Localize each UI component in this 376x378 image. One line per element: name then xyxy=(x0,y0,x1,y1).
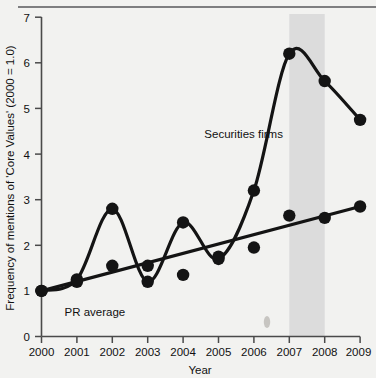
y-tick-label-1: 1 xyxy=(24,285,30,297)
x-tick-label-2003: 2003 xyxy=(135,346,161,358)
x-axis-ticks xyxy=(42,337,361,344)
y-tick-label-7: 7 xyxy=(24,12,30,24)
chart-plot-area: 0 1 2 3 4 5 6 7 2000 2001 2002 2 xyxy=(0,0,376,378)
pr-average-label: PR average xyxy=(65,306,126,318)
securities-firms-data-point xyxy=(35,285,47,297)
y-tick-label-6: 6 xyxy=(24,57,30,69)
x-tick-label-2002: 2002 xyxy=(100,346,126,358)
y-tick-label-0: 0 xyxy=(24,331,30,343)
y-tick-label-5: 5 xyxy=(24,103,30,115)
shaded-band-2007-2008 xyxy=(289,14,324,336)
securities-firms-data-point xyxy=(248,184,260,196)
x-tick-label-2006: 2006 xyxy=(241,346,267,358)
y-tick-label-3: 3 xyxy=(24,194,30,206)
securities-firms-data-point xyxy=(283,47,295,59)
securities-firms-label: Securities firms xyxy=(204,128,283,140)
pr-average-data-point xyxy=(283,209,295,221)
y-axis-title: Frequency of mentions of 'Core Values' (… xyxy=(4,45,16,310)
x-tick-label-2001: 2001 xyxy=(64,346,90,358)
securities-firms-data-point xyxy=(71,273,83,285)
pr-average-data-point xyxy=(142,260,154,272)
x-axis-tick-labels: 2000 2001 2002 2003 2004 2005 2006 2007 … xyxy=(29,346,372,358)
x-axis-title: Year xyxy=(188,364,211,376)
pr-average-data-point xyxy=(248,241,260,253)
scan-smudge-artifact xyxy=(264,316,270,328)
securities-firms-data-point xyxy=(212,253,224,265)
securities-firms-data-point xyxy=(177,216,189,228)
x-tick-label-2007: 2007 xyxy=(277,346,303,358)
y-axis-tick-labels: 0 1 2 3 4 5 6 7 xyxy=(24,12,31,343)
x-tick-label-2009: 2009 xyxy=(346,346,372,358)
y-tick-label-2: 2 xyxy=(24,240,30,252)
securities-firms-data-point xyxy=(142,276,154,288)
securities-firms-data-point xyxy=(319,75,331,87)
securities-firms-data-point xyxy=(106,203,118,215)
chart-figure: 0 1 2 3 4 5 6 7 2000 2001 2002 2 xyxy=(0,0,376,378)
x-tick-label-2008: 2008 xyxy=(312,346,338,358)
pr-average-data-point xyxy=(354,200,366,212)
y-tick-label-4: 4 xyxy=(24,149,31,161)
x-tick-label-2000: 2000 xyxy=(29,346,55,358)
pr-average-data-point xyxy=(319,212,331,224)
securities-firms-data-point xyxy=(354,114,366,126)
pr-average-data-point xyxy=(106,260,118,272)
x-tick-label-2004: 2004 xyxy=(170,346,196,358)
x-tick-label-2005: 2005 xyxy=(206,346,232,358)
pr-average-data-point xyxy=(177,269,189,281)
